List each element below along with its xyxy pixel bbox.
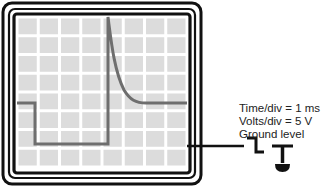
grid-cell [82, 19, 100, 35]
grid-cell [146, 131, 164, 147]
grid-cell [167, 56, 185, 72]
grid-cell [82, 94, 100, 110]
grid-cell [125, 56, 143, 72]
grid-cell [146, 56, 164, 72]
grid-cell [125, 112, 143, 128]
grid-cell [19, 37, 37, 53]
grid-cell [82, 150, 100, 166]
grid-cell [146, 37, 164, 53]
grid-cell [40, 112, 58, 128]
grid-cell [125, 75, 143, 91]
grid-cell [19, 19, 37, 35]
grid-cell [146, 19, 164, 35]
ground-level-label: Ground level [239, 128, 304, 141]
grid-cell [19, 56, 37, 72]
grid-cell [82, 37, 100, 53]
grid-cell [104, 94, 122, 110]
grid-cell [40, 56, 58, 72]
grid-cell [61, 37, 79, 53]
grid-cell [125, 131, 143, 147]
grid-cell [40, 94, 58, 110]
grid-cell [146, 75, 164, 91]
grid-cell [125, 150, 143, 166]
ground-icon [272, 146, 293, 172]
grid-cell [40, 37, 58, 53]
grid-cell [61, 19, 79, 35]
grid-cell [146, 94, 164, 110]
grid-cell [61, 112, 79, 128]
grid-cell [61, 75, 79, 91]
grid-cell [19, 75, 37, 91]
volts-per-div-label: Volts/div = 5 V [239, 115, 312, 128]
oscilloscope-diagram [0, 0, 322, 186]
grid-cell [40, 75, 58, 91]
grid-cell [104, 112, 122, 128]
grid-cell [61, 56, 79, 72]
grid-cell [104, 150, 122, 166]
grid-cell [167, 94, 185, 110]
grid-cell [19, 150, 37, 166]
grid-cell [104, 19, 122, 35]
grid-cell [82, 56, 100, 72]
grid-cell [146, 150, 164, 166]
grid-cell [167, 112, 185, 128]
grid-cell [82, 75, 100, 91]
grid-cell [167, 37, 185, 53]
time-per-div-label: Time/div = 1 ms [239, 102, 320, 115]
grid-cell [61, 94, 79, 110]
grid-cell [167, 131, 185, 147]
grid-cell [167, 75, 185, 91]
grid-cell [125, 37, 143, 53]
grid-cell [167, 150, 185, 166]
grid-cell [167, 19, 185, 35]
grid-cell [146, 112, 164, 128]
grid-cell [40, 150, 58, 166]
grid-cell [61, 150, 79, 166]
grid-cell [125, 19, 143, 35]
grid-cell [82, 112, 100, 128]
grid-cell [40, 19, 58, 35]
